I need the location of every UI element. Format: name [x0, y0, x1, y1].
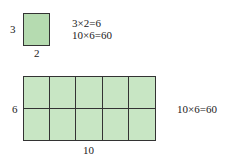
grid-cell — [129, 109, 155, 141]
grid-cell — [129, 77, 155, 109]
grid-cell — [103, 77, 129, 109]
equation-1: 3×2=6 — [72, 17, 101, 29]
grid-width-label: 10 — [83, 144, 94, 156]
small-rect-width-label: 2 — [34, 47, 40, 59]
small-rectangle — [23, 13, 50, 46]
small-rect-height-label: 3 — [10, 23, 16, 35]
grid-cell — [24, 109, 50, 141]
grid-cell — [24, 77, 50, 109]
grid-cell — [50, 109, 76, 141]
grid-height-label: 6 — [12, 103, 18, 115]
grid-cell — [103, 109, 129, 141]
grid-cell — [76, 77, 102, 109]
grid-cell — [76, 109, 102, 141]
grid-cell — [50, 77, 76, 109]
grid-equation: 10×6=60 — [177, 103, 217, 115]
large-grid — [23, 76, 156, 141]
equation-2: 10×6=60 — [72, 29, 112, 41]
